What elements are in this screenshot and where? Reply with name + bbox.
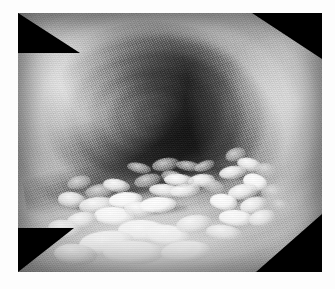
corner-vignette-bottom-right bbox=[256, 214, 322, 272]
corner-vignette-top-left bbox=[18, 13, 80, 53]
corner-vignette-bottom-left bbox=[18, 228, 74, 272]
corner-vignette-top-right bbox=[252, 13, 322, 59]
photo-caption: Grayscale endoscopic photograph of the e… bbox=[0, 0, 1, 1]
endoscopic-photo[interactable] bbox=[18, 13, 322, 272]
page-root: Grayscale endoscopic photograph of the e… bbox=[0, 0, 335, 289]
